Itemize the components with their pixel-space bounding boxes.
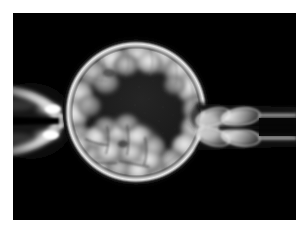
micrograph-frame: mammalian blastocyst embryo during troph… (13, 13, 296, 220)
blastocyst (62, 39, 209, 185)
image-canvas: mammalian blastocyst embryo during troph… (0, 0, 304, 232)
aspirated-cell-string (194, 103, 296, 151)
micrograph-svg (13, 13, 296, 220)
